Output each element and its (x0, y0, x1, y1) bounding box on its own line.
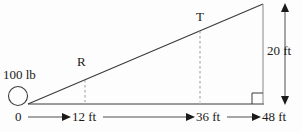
load-weight-label: 100 lb (3, 68, 36, 81)
origin-label: 0 (15, 110, 22, 123)
distance-label-48ft: 48 ft (262, 110, 286, 123)
distance-label-36ft: 36 ft (196, 110, 220, 123)
arrowhead-height-top-icon (281, 3, 289, 12)
diagram-canvas (0, 0, 302, 132)
ramp-force-diagram: 100 lb R T 20 ft 0 12 ft 36 ft 48 ft (0, 0, 302, 132)
arrowhead-48ft-icon (252, 113, 261, 121)
distance-label-12ft: 12 ft (72, 110, 96, 123)
arrowhead-height-bottom-icon (281, 96, 289, 105)
arrowhead-12ft-icon (62, 113, 71, 121)
arrowhead-36ft-icon (186, 113, 195, 121)
point-label-t: T (196, 10, 204, 23)
height-dimension-label: 20 ft (267, 44, 291, 57)
load-circle-icon (9, 87, 28, 106)
incline-line (28, 4, 263, 104)
point-label-r: R (77, 55, 86, 68)
right-angle-marker-icon (252, 93, 263, 104)
